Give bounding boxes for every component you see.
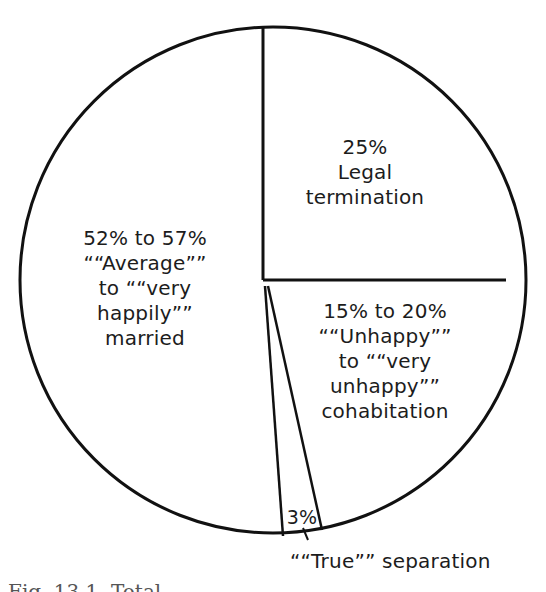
unhappy-line1: ““Unhappy”” — [305, 324, 465, 349]
separation-pct: 3% — [282, 505, 322, 530]
unhappy-line4: cohabitation — [305, 399, 465, 424]
slice-label-separation-name: ““True”” separation — [290, 549, 490, 574]
slice-label-unhappy-cohabitation: 15% to 20% ““Unhappy”” to ““very unhappy… — [305, 299, 465, 424]
married-line2: to ““very — [60, 276, 230, 301]
married-line3: happily”” — [60, 301, 230, 326]
legal-line1: Legal — [300, 160, 430, 185]
unhappy-line3: unhappy”” — [305, 374, 465, 399]
married-line4: married — [60, 326, 230, 351]
slice-label-separation-pct: 3% — [282, 505, 322, 530]
slice-label-legal-termination: 25% Legal termination — [300, 135, 430, 210]
separation-name: ““True”” separation — [290, 549, 490, 574]
figure-caption: Fig. 13.1. Total ... — [8, 578, 546, 592]
unhappy-pct: 15% to 20% — [305, 299, 465, 324]
unhappy-line2: to ““very — [305, 349, 465, 374]
legal-line2: termination — [300, 185, 430, 210]
legal-pct: 25% — [300, 135, 430, 160]
married-pct: 52% to 57% — [60, 226, 230, 251]
slice-label-married: 52% to 57% ““Average”” to ““very happily… — [60, 226, 230, 351]
married-line1: ““Average”” — [60, 251, 230, 276]
caption-text: Fig. 13.1. Total ... — [8, 580, 187, 592]
